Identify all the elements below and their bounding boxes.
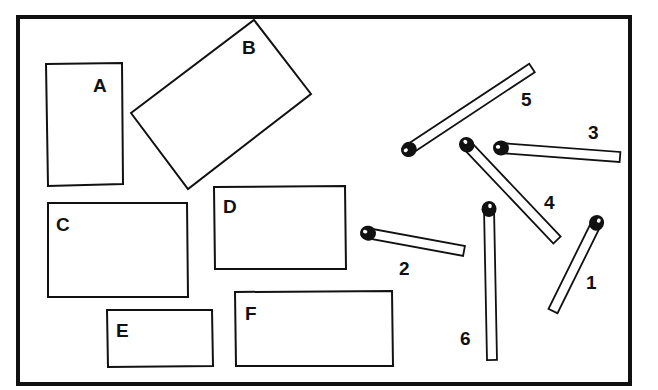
match-stick-body [366, 228, 465, 256]
match-stick [359, 224, 466, 258]
rectangle-shape [235, 291, 393, 366]
puzzle-diagram: ABCDEF 123456 [0, 0, 658, 390]
rectangle-shape [131, 20, 311, 189]
match-stick [546, 212, 607, 314]
match-1: 1 [546, 212, 607, 314]
match-stick [492, 140, 620, 164]
rectangle-label: C [56, 214, 70, 235]
match-stick [481, 201, 499, 360]
match-label: 5 [521, 89, 532, 110]
rectangle-shape [46, 63, 123, 186]
rectangles-group: ABCDEF [46, 20, 393, 367]
match-label: 6 [460, 328, 471, 349]
rectangle-label: E [116, 320, 129, 341]
match-3: 3 [492, 122, 620, 164]
rectangle-f: F [235, 291, 393, 366]
rectangle-label: B [242, 37, 256, 58]
rectangle-b: B [131, 20, 311, 189]
match-stick-body [484, 208, 497, 360]
rectangle-label: A [93, 75, 107, 96]
rectangle-c: C [48, 203, 188, 297]
rectangle-a: A [46, 63, 123, 186]
match-label: 4 [544, 192, 555, 213]
match-label: 2 [399, 258, 410, 279]
match-6: 6 [460, 201, 499, 360]
match-stick-body [500, 143, 621, 162]
rectangle-label: F [245, 303, 257, 324]
match-2: 2 [359, 224, 466, 279]
rectangle-label: D [223, 196, 237, 217]
match-label: 3 [588, 122, 599, 143]
rectangle-d: D [214, 186, 346, 269]
matches-group: 123456 [359, 62, 621, 360]
rectangle-e: E [107, 310, 213, 367]
match-label: 1 [586, 272, 597, 293]
